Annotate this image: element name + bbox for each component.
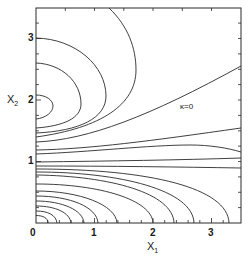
y-tick-label-3: 3 [28,33,34,43]
y-tick-label-1: 1 [28,156,34,166]
middle-contours [36,66,241,156]
x-tick-label-3: 3 [208,228,214,238]
x-tick-label-1: 1 [91,228,97,238]
y-axis-title-subscript: 2 [14,100,18,107]
lower-contours [36,169,229,223]
x-tick-label-2: 2 [150,228,156,238]
y-axis-title: X2 [7,94,18,107]
kappa-zero-label: κ=0 [180,103,193,111]
upper-contours [36,8,136,137]
y-ticks-left [36,23,41,208]
x-axis-title: X1 [147,241,158,254]
plot-frame [36,8,241,223]
contour-plot [0,0,248,257]
y-tick-label-2: 2 [28,95,34,105]
x-tick-label-0: 0 [30,228,36,238]
x-axis-title-subscript: 1 [154,247,158,254]
kappa-zero-curve [36,66,241,142]
x-ticks-bottom [48,218,224,223]
